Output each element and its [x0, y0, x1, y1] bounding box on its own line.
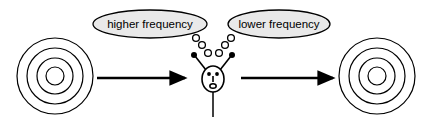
diagram-canvas: higher frequency lower frequency	[0, 0, 431, 125]
observer-left-arm	[195, 56, 206, 70]
trail-circle	[199, 42, 206, 49]
trail-circle	[193, 35, 200, 42]
lower-frequency-bubble-label: lower frequency	[238, 18, 319, 30]
result-target-ring-3	[359, 58, 395, 94]
observer-mouth	[210, 84, 216, 89]
trail-circle	[222, 42, 229, 49]
source-target-ring-4	[46, 67, 64, 85]
source-target-ring-3	[37, 58, 73, 94]
diagram-svg: higher frequency lower frequency	[0, 0, 431, 125]
source-target-ring-1	[17, 38, 93, 114]
result-target-ring-1	[339, 38, 415, 114]
observer-right-arm	[220, 56, 231, 70]
observer-right-hand-dot	[229, 52, 235, 58]
observer-left-eye	[207, 72, 211, 76]
result-target-ring-4	[368, 67, 386, 85]
trail-circle	[205, 50, 212, 57]
lower-frequency-bubble: lower frequency	[228, 10, 330, 38]
observer-right-eye	[215, 72, 219, 76]
trail-circle	[216, 50, 223, 57]
source-target	[17, 38, 93, 114]
higher-frequency-bubble: higher frequency	[93, 10, 207, 38]
observer-left-hand-dot	[191, 52, 197, 58]
trail-circle	[228, 35, 235, 42]
result-target-ring-2	[349, 48, 405, 104]
observer-figure	[191, 52, 235, 117]
result-target	[339, 38, 415, 114]
source-target-ring-2	[27, 48, 83, 104]
higher-frequency-bubble-label: higher frequency	[107, 18, 193, 30]
